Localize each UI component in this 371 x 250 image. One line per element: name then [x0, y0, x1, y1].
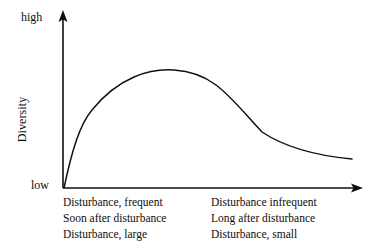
- caption-line: Long after disturbance: [211, 210, 317, 226]
- y-axis-high-label: high: [21, 11, 42, 24]
- caption-line: Disturbance, large: [63, 226, 166, 242]
- diversity-disturbance-figure: high low Diversity Disturbance, frequent…: [0, 0, 371, 250]
- caption-line: Disturbance, frequent: [63, 194, 166, 210]
- caption-left-column: Disturbance, frequent Soon after disturb…: [63, 194, 166, 242]
- caption-line: Soon after disturbance: [63, 210, 166, 226]
- caption-right-column: Disturbance infrequent Long after distur…: [211, 194, 317, 242]
- caption-line: Disturbance infrequent: [211, 194, 317, 210]
- y-axis-low-label: low: [31, 179, 49, 192]
- y-axis-title: Diversity: [16, 89, 29, 151]
- caption-line: Disturbance, small: [211, 226, 317, 242]
- diversity-curve: [64, 70, 352, 188]
